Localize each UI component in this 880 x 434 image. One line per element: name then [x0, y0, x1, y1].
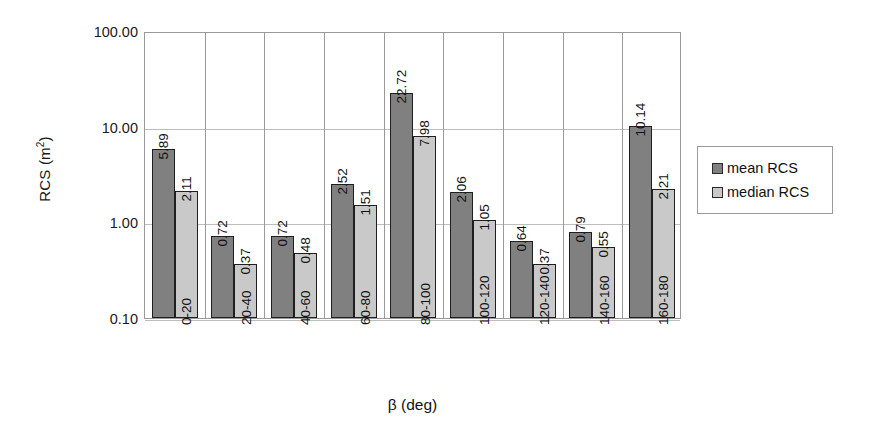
bar-value-label: 0.37 [239, 248, 253, 274]
bar-mean-rcs[interactable] [390, 93, 413, 318]
bar-mean-rcs[interactable] [450, 192, 473, 318]
x-axis-tick-label: 60-80 [359, 290, 373, 325]
y-axis-title-close: ) [36, 136, 53, 141]
x-axis-tick-label: 0-20 [180, 298, 194, 325]
bar-group: 2.521.51 [324, 33, 384, 318]
rcs-bar-chart: RCS (m2) 100.0010.001.000.10 5.892.110.7… [0, 0, 880, 434]
bar-value-label: 2.52 [335, 168, 349, 194]
legend-item[interactable]: median RCS [712, 180, 832, 204]
bar-value-label: 0.64 [514, 225, 528, 251]
y-axis-tick-labels: 100.0010.001.000.10 [74, 0, 138, 434]
bar-value-label: 0.48 [299, 237, 313, 263]
bar-value-label: 10.14 [634, 103, 648, 137]
bar-mean-rcs[interactable] [211, 236, 234, 318]
bar-value-label: 0.72 [216, 220, 230, 246]
bar-group: 5.892.11 [145, 33, 205, 318]
bar-value-label: 2.21 [657, 174, 671, 200]
y-axis-title-exponent: 2 [35, 141, 46, 147]
bar-value-label: 7.98 [418, 120, 432, 146]
legend-item-label: mean RCS [727, 160, 798, 176]
bar-value-label: 0.37 [537, 248, 551, 274]
x-axis-tick-label: 140-160 [598, 275, 612, 325]
bar-value-label: 22.72 [395, 69, 409, 103]
bar-mean-rcs[interactable] [152, 149, 175, 318]
x-axis-tick-labels: 0-2020-4040-6060-8080-100100-120120-1401… [144, 319, 681, 389]
bar-mean-rcs[interactable] [331, 184, 354, 318]
y-axis-title: RCS (m2) [35, 109, 53, 229]
legend-item[interactable]: mean RCS [712, 156, 832, 180]
x-axis-tick-label: 120-140 [538, 275, 552, 325]
y-axis-tick-label: 0.10 [76, 312, 138, 327]
bar-mean-rcs[interactable] [510, 241, 533, 318]
bar-mean-rcs[interactable] [569, 232, 592, 318]
y-axis-tick-label: 1.00 [76, 216, 138, 231]
y-axis-tick-label: 10.00 [76, 121, 138, 136]
bar-value-label: 2.11 [179, 177, 193, 202]
bar-group: 2.061.05 [443, 33, 503, 318]
bar-value-label: 1.51 [358, 189, 372, 215]
bar-value-label: 0.55 [597, 231, 611, 257]
x-axis-tick-label: 100-120 [478, 275, 492, 325]
y-axis-tick-label: 100.00 [76, 25, 138, 40]
bar-group: 0.720.48 [264, 33, 324, 318]
bar-group: 22.727.98 [384, 33, 444, 318]
bar-mean-rcs[interactable] [271, 236, 294, 318]
legend-swatch-mean-icon [712, 163, 723, 174]
bar-group: 0.790.55 [563, 33, 623, 318]
bar-value-label: 2.06 [455, 177, 469, 203]
bar-group: 0.640.37 [503, 33, 563, 318]
legend-item-label: median RCS [727, 184, 809, 200]
legend-swatch-median-icon [712, 187, 723, 198]
y-axis-title-text: RCS (m [36, 147, 53, 202]
x-axis-title: β (deg) [144, 396, 681, 414]
x-axis-tick-label: 20-40 [240, 290, 254, 325]
x-axis-tick-label: 160-180 [657, 275, 671, 325]
chart-legend: mean RCSmedian RCS [697, 146, 833, 214]
bar-value-label: 5.89 [156, 133, 170, 159]
bar-value-label: 0.72 [276, 220, 290, 246]
bar-group: 10.142.21 [622, 33, 682, 318]
bar-value-label: 1.05 [478, 205, 492, 231]
bar-value-label: 0.79 [574, 216, 588, 242]
bar-group: 0.720.37 [205, 33, 265, 318]
x-axis-tick-label: 80-100 [419, 283, 433, 325]
bar-mean-rcs[interactable] [629, 126, 652, 318]
x-axis-tick-label: 40-60 [299, 290, 313, 325]
